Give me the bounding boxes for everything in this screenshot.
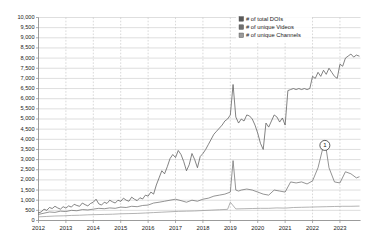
x-tick-label: 2023 — [333, 225, 346, 231]
y-tick-label: 2,000 — [21, 176, 35, 182]
y-tick-label: 5,500 — [21, 105, 35, 111]
y-axis-tick-labels: 05001,0001,5002,0002,5003,0003,5004,0004… — [17, 14, 38, 223]
legend-swatch — [239, 17, 244, 22]
legend-swatch — [239, 33, 244, 38]
x-tick-label: 2015 — [114, 225, 127, 231]
y-tick-label: 8,500 — [21, 44, 35, 50]
x-tick-label: 2012 — [32, 225, 45, 231]
y-tick-label: 7,500 — [21, 65, 35, 71]
chart-container: 05001,0001,5002,0002,5003,0003,5004,0004… — [0, 0, 367, 245]
y-tick-label: 9,500 — [21, 24, 35, 30]
y-tick-label: 4,500 — [21, 126, 35, 132]
y-tick-label: 10,000 — [17, 14, 34, 20]
x-tick-label: 2019 — [224, 225, 237, 231]
x-tick-label: 2016 — [142, 225, 155, 231]
x-tick-label: 2017 — [169, 225, 182, 231]
chart-legend: # of total DOIs# of unique Videos# of un… — [236, 15, 312, 43]
y-tick-label: 4,000 — [21, 136, 35, 142]
y-tick-label: 1,500 — [21, 187, 35, 193]
x-tick-label: 2021 — [279, 225, 292, 231]
grid-lines-horizontal — [39, 18, 361, 221]
y-tick-label: 3,000 — [21, 156, 35, 162]
y-tick-label: 8,000 — [21, 55, 35, 61]
y-tick-label: 500 — [25, 207, 34, 213]
legend-label: # of total DOIs — [246, 16, 283, 22]
series-line — [39, 54, 360, 213]
y-tick-label: 3,500 — [21, 146, 35, 152]
legend-label: # of unique Videos — [246, 24, 294, 30]
x-axis-tick-labels: 2012201320142015201620172018201920202021… — [32, 221, 346, 232]
line-chart: 05001,0001,5002,0002,5003,0003,5004,0004… — [0, 0, 367, 245]
y-tick-label: 2,500 — [21, 166, 35, 172]
y-tick-label: 7,000 — [21, 75, 35, 81]
chart-annotations: 1 — [320, 140, 330, 150]
x-tick-label: 2022 — [306, 225, 319, 231]
y-tick-label: 6,000 — [21, 95, 35, 101]
legend-label: # of unique Channels — [246, 32, 301, 38]
y-tick-label: 0 — [31, 217, 34, 223]
x-tick-label: 2014 — [87, 225, 101, 231]
y-tick-label: 1,000 — [21, 197, 35, 203]
y-tick-label: 6,500 — [21, 85, 35, 91]
y-tick-label: 5,000 — [21, 115, 35, 121]
legend-swatch — [239, 25, 244, 30]
y-tick-label: 9,000 — [21, 34, 35, 40]
x-tick-label: 2013 — [59, 225, 72, 231]
x-tick-label: 2018 — [196, 225, 209, 231]
x-tick-label: 2020 — [251, 225, 264, 231]
